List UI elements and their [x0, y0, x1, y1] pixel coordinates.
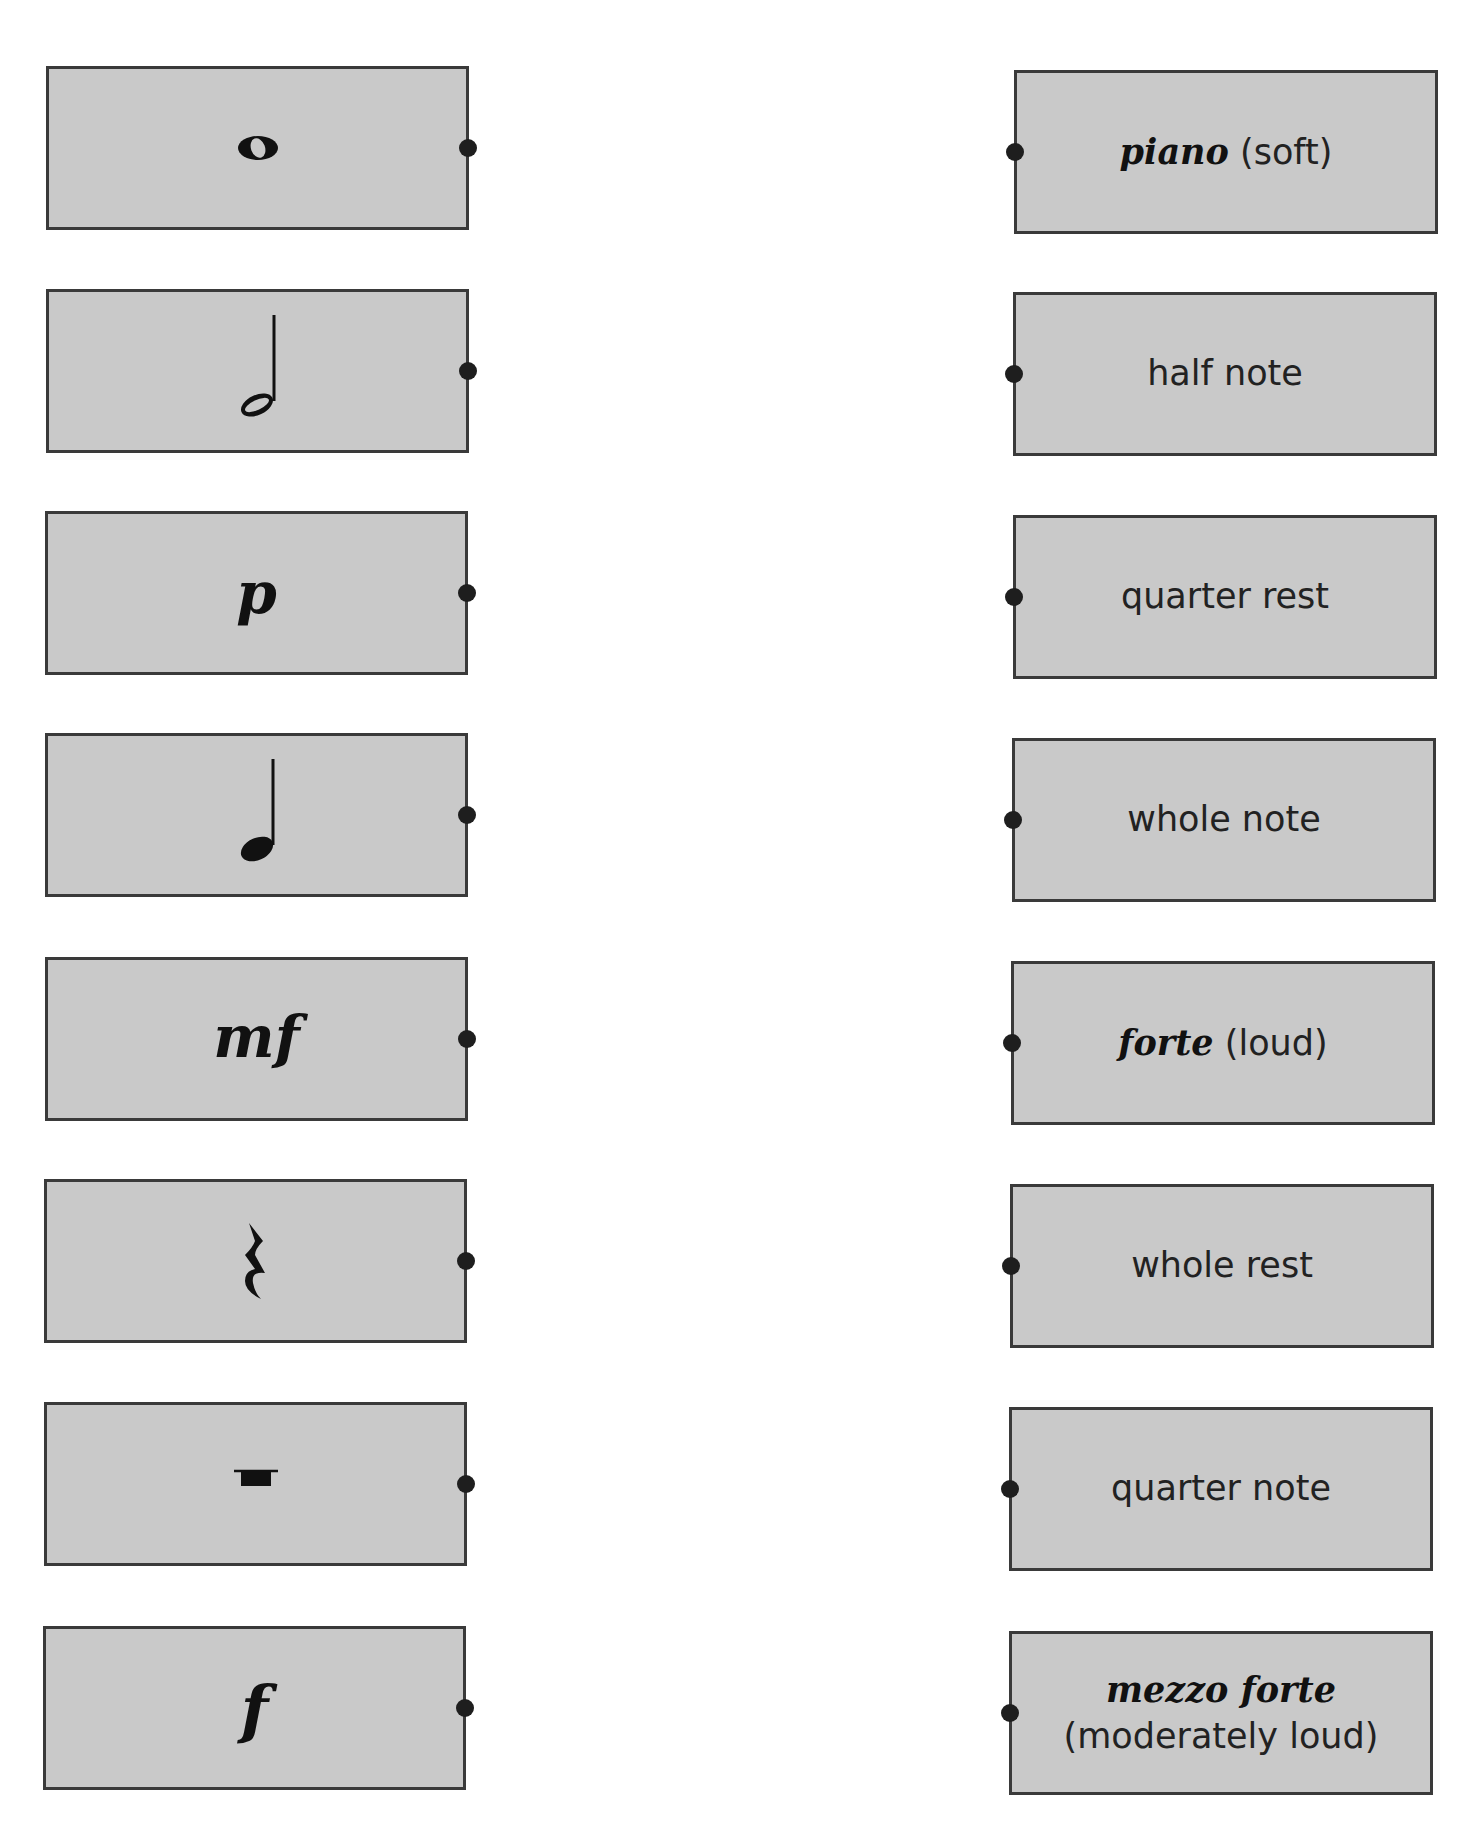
label-text: mezzo forte (moderately loud) [1064, 1666, 1379, 1761]
label-text: half note [1147, 350, 1303, 397]
dynamic-f-icon: f [241, 1671, 269, 1746]
connector-dot[interactable] [1002, 1257, 1020, 1275]
label-text: piano (soft) [1120, 128, 1333, 176]
connector-dot[interactable] [457, 1252, 475, 1270]
connector-dot[interactable] [1005, 365, 1023, 383]
symbol-card-whole-rest [44, 1402, 467, 1566]
connector-dot[interactable] [1004, 811, 1022, 829]
label-text: whole rest [1131, 1242, 1313, 1289]
connector-dot[interactable] [1001, 1480, 1019, 1498]
half-note-icon [233, 313, 283, 423]
symbol-card-half-note [46, 289, 469, 453]
label-card-mezzo-forte: mezzo forte (moderately loud) [1009, 1631, 1433, 1795]
label-card-whole-rest: whole rest [1010, 1184, 1434, 1348]
connector-dot[interactable] [458, 1030, 476, 1048]
label-text: forte (loud) [1118, 1019, 1327, 1067]
symbol-card-forte: f [43, 1626, 466, 1790]
quarter-note-icon [232, 757, 282, 867]
label-card-whole-note: whole note [1012, 738, 1436, 902]
whole-rest-icon [232, 1469, 280, 1489]
connector-dot[interactable] [1003, 1034, 1021, 1052]
connector-dot[interactable] [458, 584, 476, 602]
symbol-card-piano: p [45, 511, 468, 675]
symbol-card-quarter-note [45, 733, 468, 897]
connector-dot[interactable] [457, 1475, 475, 1493]
connector-dot[interactable] [459, 139, 477, 157]
label-text: quarter note [1111, 1465, 1331, 1512]
connector-dot[interactable] [459, 362, 477, 380]
label-card-half-note: half note [1013, 292, 1437, 456]
label-card-quarter-note: quarter note [1009, 1407, 1433, 1571]
connector-dot[interactable] [456, 1699, 474, 1717]
symbol-card-quarter-rest [44, 1179, 467, 1343]
dynamic-p-icon: p [236, 559, 277, 627]
whole-note-icon [236, 133, 280, 163]
quarter-rest-icon [241, 1221, 271, 1301]
label-card-piano: piano (soft) [1014, 70, 1438, 234]
label-text: whole note [1127, 796, 1320, 843]
symbol-card-mezzo-forte: mf [45, 957, 468, 1121]
label-text: quarter rest [1121, 573, 1329, 620]
connector-dot[interactable] [458, 806, 476, 824]
connector-dot[interactable] [1006, 143, 1024, 161]
label-card-quarter-rest: quarter rest [1013, 515, 1437, 679]
dynamic-mf-icon: mf [213, 1003, 299, 1071]
symbol-card-whole-note [46, 66, 469, 230]
label-card-forte: forte (loud) [1011, 961, 1435, 1125]
connector-dot[interactable] [1005, 588, 1023, 606]
connector-dot[interactable] [1001, 1704, 1019, 1722]
